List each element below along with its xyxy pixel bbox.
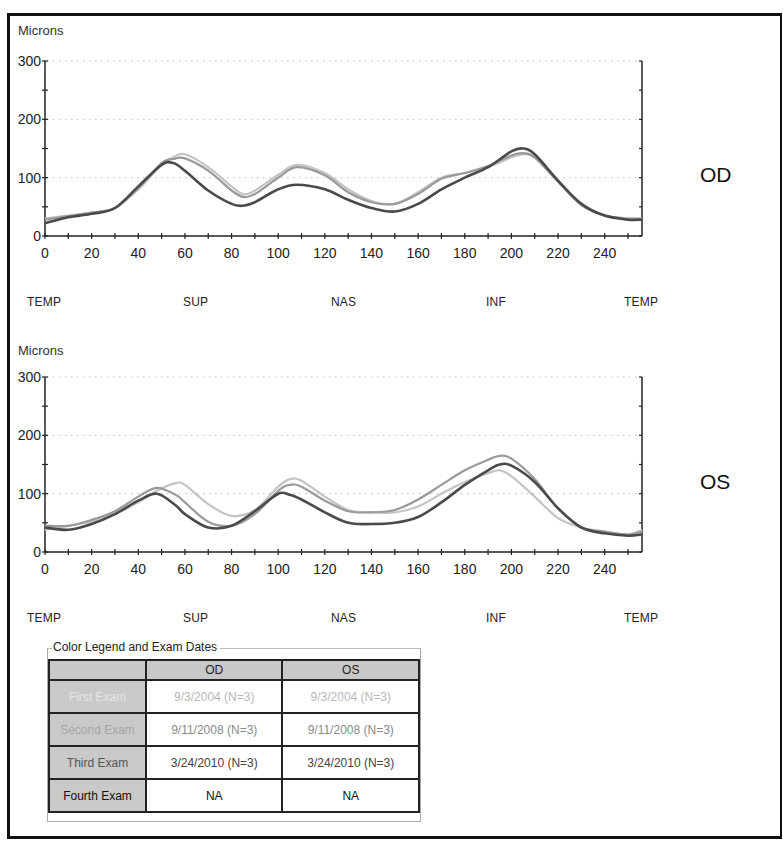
od-y-tick-label: 200 xyxy=(18,111,42,127)
od-x-tick-label: 20 xyxy=(84,245,100,261)
od-x-tick-label: 40 xyxy=(130,245,146,261)
legend-table: OD OS First Exam 9/3/2004 (N=3) 9/3/2004… xyxy=(48,659,420,813)
os-region-nas: NAS xyxy=(331,611,356,625)
od-x-tick-label: 0 xyxy=(41,245,49,261)
legend-cell-od: 3/24/2010 (N=3) xyxy=(146,746,283,779)
od-x-tick-label: 120 xyxy=(313,245,337,261)
legend-cell-os: 9/11/2008 (N=3) xyxy=(282,713,419,746)
legend-row-second-exam: Second Exam 9/11/2008 (N=3) 9/11/2008 (N… xyxy=(49,713,419,746)
os-x-tick-label: 0 xyxy=(41,561,49,577)
os-y-tick-label: 300 xyxy=(18,369,42,385)
od-x-tick-label: 240 xyxy=(593,245,617,261)
os-x-tick-label: 80 xyxy=(224,561,240,577)
od-eye-label: OD xyxy=(700,163,732,187)
os-x-tick-label: 20 xyxy=(84,561,100,577)
legend-cell-os: 9/3/2004 (N=3) xyxy=(282,680,419,713)
od-region-temp-left: TEMP xyxy=(27,295,61,309)
os-x-tick-label: 40 xyxy=(130,561,146,577)
os-region-inf: INF xyxy=(486,611,506,625)
od-y-tick-label: 100 xyxy=(18,170,42,186)
od-x-tick-label: 200 xyxy=(500,245,524,261)
legend-cell-od: 9/3/2004 (N=3) xyxy=(146,680,283,713)
legend-cell-od: NA xyxy=(146,779,283,812)
od-x-tick-label: 140 xyxy=(360,245,384,261)
legend-title: Color Legend and Exam Dates xyxy=(52,640,220,654)
legend-row-third-exam: Third Exam 3/24/2010 (N=3) 3/24/2010 (N=… xyxy=(49,746,419,779)
legend-row-label: Second Exam xyxy=(49,713,146,746)
legend-row-label: Fourth Exam xyxy=(49,779,146,812)
os-x-tick-label: 220 xyxy=(546,561,570,577)
od-x-tick-label: 160 xyxy=(406,245,430,261)
od-y-tick-label: 300 xyxy=(18,53,42,69)
color-legend-group: Color Legend and Exam Dates OD OS First … xyxy=(47,648,421,822)
od-region-inf: INF xyxy=(486,295,506,309)
od-x-tick-label: 220 xyxy=(546,245,570,261)
os-y-tick-label: 200 xyxy=(18,427,42,443)
legend-cell-os: 3/24/2010 (N=3) xyxy=(282,746,419,779)
od-y-tick-label: 0 xyxy=(33,228,41,244)
legend-row-fourth-exam: Fourth Exam NA NA xyxy=(49,779,419,812)
od-x-tick-label: 180 xyxy=(453,245,477,261)
legend-header-od: OD xyxy=(146,660,283,680)
legend-header-blank xyxy=(49,660,146,680)
os-x-tick-label: 140 xyxy=(360,561,384,577)
os-x-tick-label: 160 xyxy=(406,561,430,577)
os-y-tick-label: 100 xyxy=(18,486,42,502)
legend-row-first-exam: First Exam 9/3/2004 (N=3) 9/3/2004 (N=3) xyxy=(49,680,419,713)
os-y-tick-label: 0 xyxy=(33,544,41,560)
od-x-tick-label: 60 xyxy=(177,245,193,261)
os-x-tick-label: 200 xyxy=(500,561,524,577)
od-series-first-exam xyxy=(45,154,642,219)
os-region-temp-right: TEMP xyxy=(624,611,658,625)
os-x-tick-label: 60 xyxy=(177,561,193,577)
legend-header-os: OS xyxy=(282,660,419,680)
os-x-tick-label: 240 xyxy=(593,561,617,577)
os-eye-label: OS xyxy=(700,470,730,494)
legend-row-label: First Exam xyxy=(49,680,146,713)
os-y-axis-label: Microns xyxy=(18,343,64,358)
legend-row-label: Third Exam xyxy=(49,746,146,779)
od-region-sup: SUP xyxy=(183,295,208,309)
os-region-temp-left: TEMP xyxy=(27,611,61,625)
legend-cell-od: 9/11/2008 (N=3) xyxy=(146,713,283,746)
legend-cell-os: NA xyxy=(282,779,419,812)
os-x-tick-label: 100 xyxy=(267,561,291,577)
od-region-temp-right: TEMP xyxy=(624,295,658,309)
os-x-tick-label: 120 xyxy=(313,561,337,577)
od-region-nas: NAS xyxy=(331,295,356,309)
os-x-tick-label: 180 xyxy=(453,561,477,577)
od-x-tick-label: 80 xyxy=(224,245,240,261)
od-x-tick-label: 100 xyxy=(267,245,291,261)
os-region-sup: SUP xyxy=(183,611,208,625)
legend-header-row: OD OS xyxy=(49,660,419,680)
